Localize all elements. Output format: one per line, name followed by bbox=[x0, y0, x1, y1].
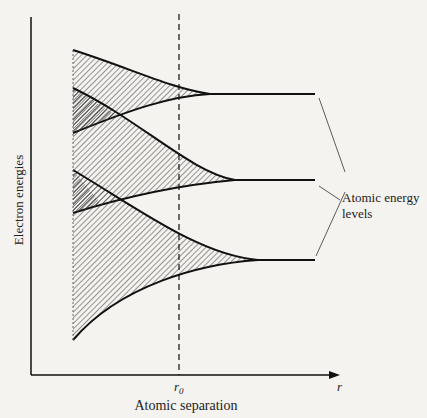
r0-subscript: 0 bbox=[179, 386, 184, 396]
annotation-leaders bbox=[316, 98, 345, 256]
r0-tick-label: r0 bbox=[174, 379, 184, 396]
x-axis-label: Atomic separation bbox=[134, 398, 237, 413]
x-axis-arrow-icon bbox=[329, 371, 340, 379]
x-axis-end-label: r bbox=[337, 379, 343, 394]
annotation-label: Atomic energy bbox=[342, 190, 420, 205]
energy-band-diagram: Atomic energy levels Electron energies r… bbox=[0, 0, 427, 418]
annotation-label-2: levels bbox=[342, 206, 372, 221]
y-axis-label: Electron energies bbox=[11, 155, 26, 245]
band-3 bbox=[73, 170, 258, 340]
